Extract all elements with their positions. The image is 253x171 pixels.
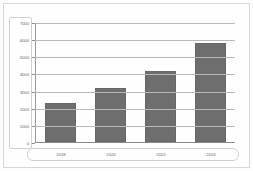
y-tick-label: 7000	[20, 22, 29, 26]
bar	[95, 88, 126, 142]
x-axis-tick-labels: 2018202020222024	[27, 148, 239, 161]
chart-figure: 70006000500040003000200010000 2018202020…	[0, 0, 253, 171]
y-tick-mark	[32, 57, 35, 58]
gridline	[35, 23, 235, 24]
y-tick-mark	[32, 126, 35, 127]
gridline	[35, 74, 235, 75]
y-tick-label: 4000	[20, 73, 29, 77]
y-tick-label: 0	[27, 142, 29, 146]
bar	[145, 71, 176, 142]
gridline	[35, 57, 235, 58]
gridline	[35, 92, 235, 93]
plot-area: 70006000500040003000200010000 2018202020…	[9, 11, 243, 161]
x-tick-label: 2024	[206, 152, 215, 156]
y-tick-mark	[32, 109, 35, 110]
bar-series	[35, 23, 235, 143]
axes-grid	[35, 23, 235, 143]
y-tick-mark	[32, 92, 35, 93]
y-tick-label: 3000	[20, 91, 29, 95]
y-tick-mark	[32, 74, 35, 75]
y-tick-mark	[32, 143, 35, 144]
y-tick-label: 5000	[20, 56, 29, 60]
x-tick-label: 2020	[106, 152, 115, 156]
y-tick-label: 1000	[20, 125, 29, 129]
gridline	[35, 40, 235, 41]
y-tick-mark	[32, 23, 35, 24]
y-tick-label: 6000	[20, 39, 29, 43]
y-tick-mark	[32, 40, 35, 41]
x-tick-label: 2018	[56, 152, 65, 156]
x-tick-label: 2022	[156, 152, 165, 156]
gridline	[35, 126, 235, 127]
gridline	[35, 109, 235, 110]
y-tick-label: 2000	[20, 108, 29, 112]
y-axis-tick-labels: 70006000500040003000200010000	[9, 17, 32, 149]
